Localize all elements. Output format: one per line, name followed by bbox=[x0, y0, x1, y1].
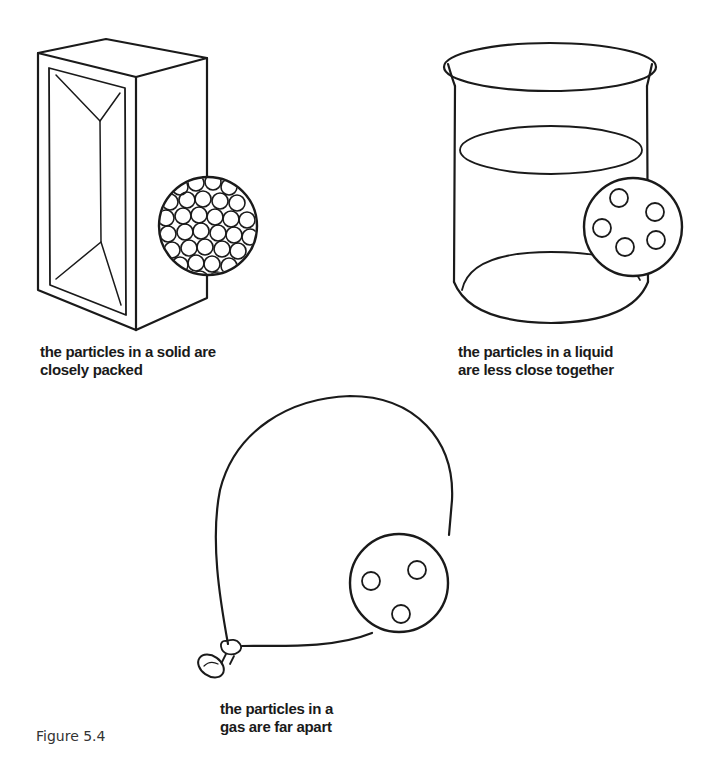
liquid-caption-line-2: are less close together bbox=[458, 361, 614, 379]
solid-caption: the particles in a solid are closely pac… bbox=[40, 343, 216, 379]
gas-particles-magnifier bbox=[350, 534, 448, 632]
solid-particles-magnifier bbox=[158, 174, 258, 288]
liquid-particles-magnifier bbox=[584, 178, 682, 276]
solid-caption-line-2: closely packed bbox=[40, 361, 216, 379]
liquid-caption-line-1: the particles in a liquid bbox=[458, 343, 614, 361]
solid-caption-line-1: the particles in a solid are bbox=[40, 343, 216, 361]
gas-caption: the particles in a gas are far apart bbox=[220, 700, 333, 736]
gas-caption-line-1: the particles in a bbox=[220, 700, 333, 718]
liquid-caption: the particles in a liquid are less close… bbox=[458, 343, 614, 379]
gas-caption-line-2: gas are far apart bbox=[220, 718, 333, 736]
figure-label: Figure 5.4 bbox=[36, 728, 105, 744]
